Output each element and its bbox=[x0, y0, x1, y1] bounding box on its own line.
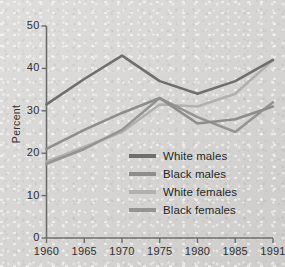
x-axis-tick-label: 1991 bbox=[256, 245, 285, 257]
legend-swatch-black-males bbox=[129, 172, 156, 176]
x-axis-tick-label: 1970 bbox=[105, 245, 139, 257]
x-axis-tick-label: 1975 bbox=[143, 245, 177, 257]
x-axis-tick-label: 1965 bbox=[67, 245, 101, 257]
x-axis-tick-label: 1980 bbox=[181, 245, 215, 257]
legend-label: White females bbox=[163, 186, 237, 198]
legend-item: Black females bbox=[129, 201, 237, 219]
chart-figure: 01020304050 1960196519701975198019851991… bbox=[0, 0, 285, 267]
legend-swatch-white-males bbox=[129, 154, 156, 158]
y-axis-tick-label: 50 bbox=[18, 19, 40, 31]
legend-item: White females bbox=[129, 183, 237, 201]
legend-item: White males bbox=[129, 147, 237, 165]
legend-label: Black males bbox=[163, 168, 226, 180]
x-axis-tick-label: 1960 bbox=[30, 245, 64, 257]
y-axis-tick-label: 40 bbox=[18, 61, 40, 73]
x-axis-tick-label: 1985 bbox=[218, 245, 252, 257]
chart-legend: White males Black males White females Bl… bbox=[129, 147, 237, 219]
y-axis-title: Percent bbox=[10, 94, 22, 154]
line-chart-plot bbox=[0, 0, 285, 267]
legend-label: Black females bbox=[163, 204, 236, 216]
legend-item: Black males bbox=[129, 165, 237, 183]
legend-swatch-black-females bbox=[129, 208, 156, 212]
y-axis-tick-label: 0 bbox=[18, 231, 40, 243]
legend-label: White males bbox=[163, 150, 227, 162]
legend-swatch-white-females bbox=[129, 190, 156, 194]
y-axis-tick-label: 10 bbox=[18, 189, 40, 201]
